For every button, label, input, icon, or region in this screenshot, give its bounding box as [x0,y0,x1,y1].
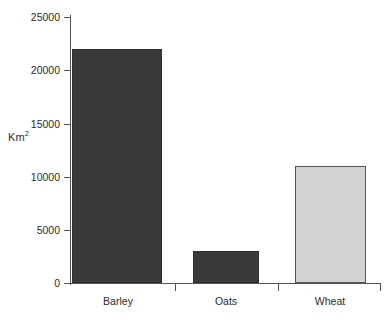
y-axis-title-superscript: 2 [25,129,29,138]
x-axis-tick [175,284,176,291]
bar-wheat [295,166,366,283]
bar-chart: Km2 0 5000 10000 15000 20000 25000 Barle… [0,0,391,320]
x-axis-line [70,283,381,284]
x-axis-label-wheat: Wheat [315,295,345,307]
y-axis-tick-label-text: 5000 [0,225,60,235]
y-axis-tick-label-0: 0 [0,278,60,288]
y-axis-line [70,15,71,285]
y-axis-tick [64,230,71,231]
y-axis-title: Km2 [8,131,29,144]
y-axis-tick-label-15000: 15000 [0,119,60,129]
y-axis-tick [64,124,71,125]
x-axis-label-oats: Oats [215,295,237,307]
y-axis-tick-label-text: 10000 [0,172,60,182]
y-axis-tick-label-5000: 5000 [0,225,60,235]
y-axis-tick-label-text: 25000 [0,12,60,22]
y-axis-tick [64,177,71,178]
x-axis-label-barley: Barley [103,295,133,307]
bar-oats [193,251,259,283]
y-axis-tick [64,17,71,18]
y-axis-tick-label-20000: 20000 [0,65,60,75]
y-axis-tick [64,283,71,284]
y-axis-tick-label-25000: 25000 [0,12,60,22]
y-axis-tick-label-text: 15000 [0,119,60,129]
x-axis-tick [278,284,279,291]
x-axis-tick [380,284,381,291]
y-axis-title-text: Km [8,131,25,143]
y-axis-tick-label-text: 20000 [0,65,60,75]
bar-barley [72,49,162,283]
y-axis-tick [64,70,71,71]
y-axis-tick-label-text: 0 [0,278,60,288]
y-axis-tick-label-10000: 10000 [0,172,60,182]
